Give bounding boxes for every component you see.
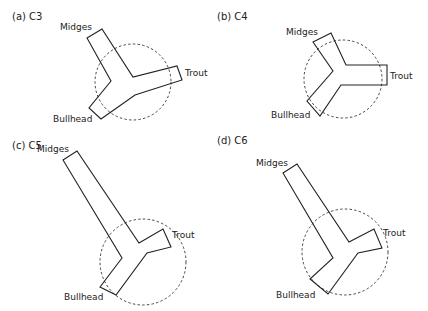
midges-label: Midges [256, 158, 288, 168]
reference-circle [302, 209, 388, 295]
bullhead-label: Bullhead [271, 110, 310, 120]
tri-arm-shape [87, 29, 182, 119]
trout-label: Trout [171, 230, 195, 240]
panel-label: (a) C3 [12, 11, 42, 22]
panel-c: (c) C5 Midges Trout Bullhead [12, 140, 195, 305]
tri-arm-shape [63, 151, 171, 295]
food-web-diagram: (a) C3 Midges Trout Bullhead (b) C4 Midg… [0, 0, 428, 311]
trout-label: Trout [382, 228, 406, 238]
tri-arm-shape [307, 33, 387, 116]
panel-a: (a) C3 Midges Trout Bullhead [12, 11, 208, 124]
bullhead-label: Bullhead [64, 292, 103, 302]
trout-label: Trout [184, 68, 208, 78]
panel-d: (d) C6 Midges Trout Bullhead [217, 135, 406, 300]
panel-label: (d) C6 [217, 135, 248, 146]
panel-b: (b) C4 Midges Trout Bullhead [217, 11, 413, 120]
midges-label: Midges [286, 27, 318, 37]
tri-arm-shape [283, 164, 382, 294]
bullhead-label: Bullhead [53, 114, 92, 124]
bullhead-label: Bullhead [276, 290, 315, 300]
reference-circle [304, 40, 382, 118]
midges-label: Midges [37, 144, 69, 154]
midges-label: Midges [60, 22, 92, 32]
figure: (a) C3 Midges Trout Bullhead (b) C4 Midg… [0, 0, 428, 311]
trout-label: Trout [389, 71, 413, 81]
reference-circle [95, 44, 171, 120]
panel-label: (b) C4 [217, 11, 248, 22]
